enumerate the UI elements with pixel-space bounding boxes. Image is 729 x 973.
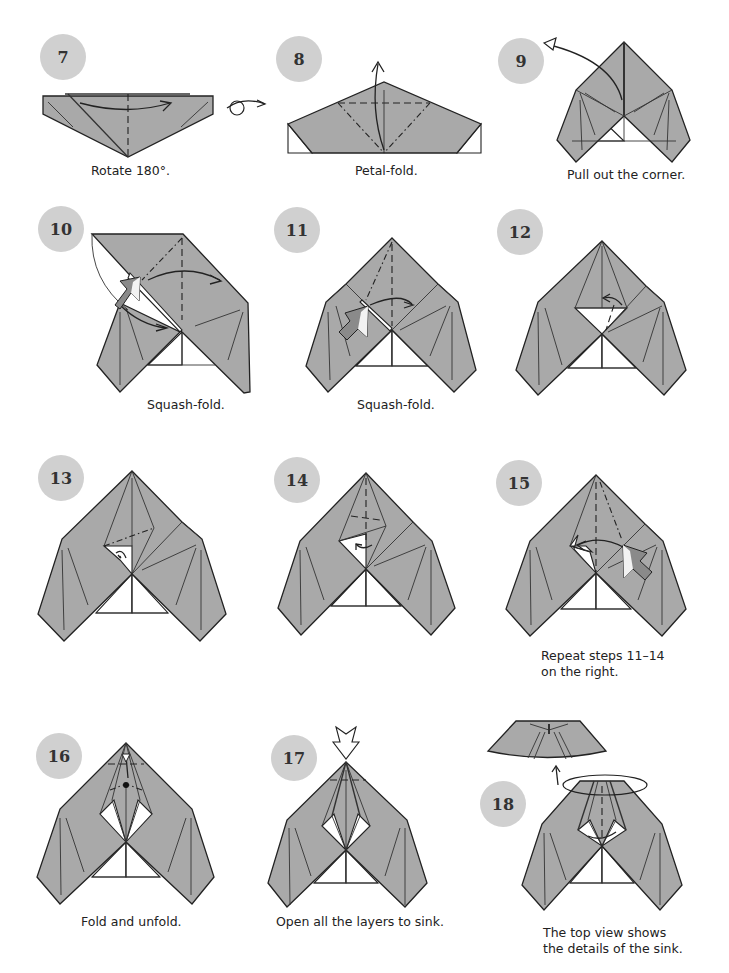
step-18-diagram [0, 0, 729, 973]
step-caption-line-1: The top view shows [543, 925, 666, 941]
top-view-inset [488, 721, 606, 759]
step-caption-line-2: the details of the sink. [543, 941, 683, 957]
